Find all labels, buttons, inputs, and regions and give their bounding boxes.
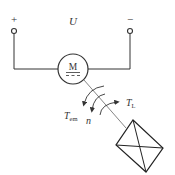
motor-label: M: [69, 62, 78, 72]
load-torque-label: TL: [126, 97, 136, 109]
load-box: [116, 120, 163, 172]
left-wire: [14, 34, 58, 70]
negative-terminal-circle: [128, 29, 133, 34]
right-wire: [88, 34, 130, 70]
positive-terminal-circle: [12, 29, 17, 34]
negative-label: −: [127, 13, 133, 25]
voltage-label: U: [69, 15, 78, 27]
motor-load-diagram: + − U M Tem n TL: [0, 0, 175, 175]
motor: M: [58, 54, 88, 84]
electromagnetic-torque-label: Tem: [64, 110, 78, 122]
positive-terminal: +: [11, 13, 17, 34]
negative-terminal: −: [127, 13, 133, 34]
positive-label: +: [11, 13, 17, 25]
speed-label: n: [86, 115, 91, 126]
